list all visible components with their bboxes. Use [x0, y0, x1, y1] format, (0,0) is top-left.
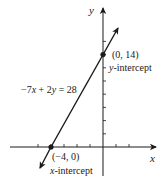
y-intercept-coordinates: (0, 14)	[112, 49, 139, 61]
x-intercept-point	[48, 144, 53, 149]
y-intercept-point	[100, 52, 105, 57]
graph-figure: y x −7x + 2y = 28 (0, 14) y-intercept (−…	[0, 0, 168, 183]
y-intercept-caption: y-intercept	[108, 62, 152, 73]
y-axis-label: y	[88, 4, 94, 16]
coordinate-plane: y x −7x + 2y = 28 (0, 14) y-intercept (−…	[0, 0, 168, 183]
x-intercept-coordinates: (−4, 0)	[52, 151, 79, 163]
x-intercept-caption: x-intercept	[49, 165, 93, 176]
x-axis-label: x	[149, 152, 155, 164]
equation-label: −7x + 2y = 28	[21, 84, 77, 95]
